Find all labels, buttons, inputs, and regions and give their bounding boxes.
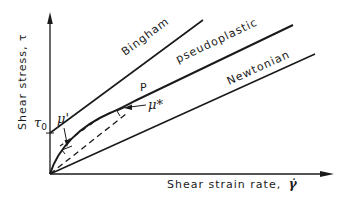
bingham-line	[50, 20, 203, 133]
y-axis-label: Shear stress, τ	[16, 33, 29, 130]
tangent-viscosity-label: μ'	[57, 111, 69, 126]
y-axis-arrow-icon	[47, 12, 53, 24]
x-axis-label-text: Shear strain rate,	[167, 178, 281, 191]
pseudoplastic-label: pseudoplastic	[174, 16, 260, 66]
newtonian-line	[50, 54, 315, 174]
yield-stress-label: τ0	[34, 115, 47, 132]
x-axis-label-symbol: γ̇	[289, 177, 298, 191]
flow-curve-diagram: Shear stress, τ Shear strain rate, γ̇ Bi…	[0, 0, 349, 205]
apparent-viscosity-pointer	[130, 105, 146, 107]
apparent-viscosity-label: μ*	[148, 97, 163, 112]
x-axis-label: Shear strain rate, γ̇	[167, 177, 298, 191]
bingham-label: Bingham	[119, 15, 172, 59]
x-axis-arrow-icon	[320, 171, 334, 177]
point-p-label: P	[140, 81, 147, 94]
pseudoplastic-curve	[50, 25, 293, 174]
y-axis	[47, 12, 53, 174]
